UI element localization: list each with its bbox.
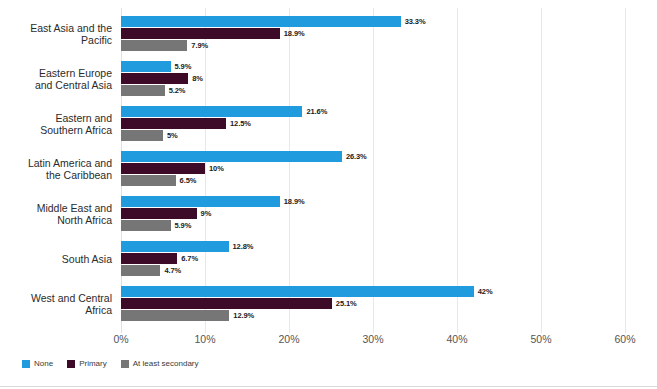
bar-value-label: 21.6% — [306, 106, 327, 117]
bar-at-least-secondary[interactable] — [121, 310, 229, 321]
bar-row: 26.3% — [121, 151, 625, 162]
bar-row: 9% — [121, 208, 625, 219]
bar-row: 21.6% — [121, 106, 625, 117]
bar-value-label: 5.9% — [175, 61, 192, 72]
bar-row: 25.1% — [121, 298, 625, 309]
bar-primary[interactable] — [121, 253, 177, 264]
bar-none[interactable] — [121, 196, 280, 207]
bar-none[interactable] — [121, 61, 171, 72]
category-label-line: the Caribbean — [0, 169, 112, 182]
bar-value-label: 12.8% — [233, 241, 254, 252]
bar-primary[interactable] — [121, 208, 197, 219]
bar-value-label: 8% — [192, 73, 203, 84]
bar-row: 5.9% — [121, 61, 625, 72]
bar-value-label: 25.1% — [336, 298, 357, 309]
legend-swatch-icon — [22, 360, 30, 368]
bar-value-label: 42% — [478, 286, 493, 297]
x-axis: 0%10%20%30%40%50%60% — [0, 333, 657, 353]
x-tick-label: 50% — [530, 333, 551, 345]
bar-group: 18.9%9%5.9% — [121, 196, 625, 231]
bar-row: 4.7% — [121, 265, 625, 276]
bar-value-label: 18.9% — [284, 196, 305, 207]
category-label-eastern-europe-and-central-asia: Eastern Europeand Central Asia — [0, 67, 112, 92]
legend-item-none[interactable]: None — [22, 359, 53, 368]
bar-none[interactable] — [121, 106, 302, 117]
x-tick-label: 0% — [113, 333, 128, 345]
bar-row: 5.2% — [121, 85, 625, 96]
bar-row: 5% — [121, 130, 625, 141]
category-label-line: Africa — [0, 304, 112, 317]
bar-primary[interactable] — [121, 163, 205, 174]
bar-row: 10% — [121, 163, 625, 174]
x-tick-label: 40% — [446, 333, 467, 345]
x-tick-label: 60% — [614, 333, 635, 345]
bar-value-label: 7.9% — [191, 40, 208, 51]
x-tick-label: 10% — [194, 333, 215, 345]
category-label-line: Eastern and — [0, 112, 112, 125]
bar-value-label: 12.5% — [230, 118, 251, 129]
bar-at-least-secondary[interactable] — [121, 40, 187, 51]
legend-swatch-icon — [67, 360, 75, 368]
bar-group: 21.6%12.5%5% — [121, 106, 625, 141]
bar-group: 5.9%8%5.2% — [121, 61, 625, 96]
category-label-line: Latin America and — [0, 157, 112, 170]
plot-area: 33.3%18.9%7.9%5.9%8%5.2%21.6%12.5%5%26.3… — [121, 8, 625, 333]
bar-value-label: 9% — [201, 208, 212, 219]
bar-primary[interactable] — [121, 73, 188, 84]
category-label-line: Southern Africa — [0, 124, 112, 137]
bar-primary[interactable] — [121, 298, 332, 309]
bar-value-label: 5.9% — [175, 220, 192, 231]
legend-label: Primary — [79, 359, 107, 368]
bar-at-least-secondary[interactable] — [121, 265, 160, 276]
category-label-line: South Asia — [0, 253, 112, 266]
bar-row: 12.5% — [121, 118, 625, 129]
bar-none[interactable] — [121, 241, 229, 252]
bar-primary[interactable] — [121, 118, 226, 129]
legend-label: None — [34, 359, 53, 368]
category-label-line: Pacific — [0, 34, 112, 47]
bar-group: 26.3%10%6.5% — [121, 151, 625, 186]
bar-value-label: 12.9% — [233, 310, 254, 321]
bar-value-label: 6.5% — [180, 175, 197, 186]
bar-row: 18.9% — [121, 28, 625, 39]
category-label-line: East Asia and the — [0, 22, 112, 35]
bar-value-label: 4.7% — [164, 265, 181, 276]
category-label-line: North Africa — [0, 214, 112, 227]
bar-group: 42%25.1%12.9% — [121, 286, 625, 321]
x-tick-label: 30% — [362, 333, 383, 345]
bar-row: 8% — [121, 73, 625, 84]
bottom-divider — [0, 386, 657, 387]
category-label-east-asia-and-the-pacific: East Asia and thePacific — [0, 22, 112, 47]
bar-at-least-secondary[interactable] — [121, 175, 176, 186]
x-tick-label: 20% — [278, 333, 299, 345]
bar-value-label: 10% — [209, 163, 224, 174]
bar-primary[interactable] — [121, 28, 280, 39]
bar-none[interactable] — [121, 286, 474, 297]
bar-none[interactable] — [121, 16, 401, 27]
bar-row: 7.9% — [121, 40, 625, 51]
bar-value-label: 26.3% — [346, 151, 367, 162]
bar-value-label: 33.3% — [405, 16, 426, 27]
legend-item-primary[interactable]: Primary — [67, 359, 107, 368]
category-label-west-and-central-africa: West and CentralAfrica — [0, 292, 112, 317]
bar-none[interactable] — [121, 151, 342, 162]
bar-at-least-secondary[interactable] — [121, 130, 163, 141]
bar-value-label: 5.2% — [169, 85, 186, 96]
category-label-line: West and Central — [0, 292, 112, 305]
bar-row: 5.9% — [121, 220, 625, 231]
legend-item-at-least-secondary[interactable]: At least secondary — [121, 359, 199, 368]
bar-row: 6.7% — [121, 253, 625, 264]
bar-group: 33.3%18.9%7.9% — [121, 16, 625, 51]
bar-value-label: 6.7% — [181, 253, 198, 264]
legend-label: At least secondary — [133, 359, 199, 368]
category-label-line: and Central Asia — [0, 79, 112, 92]
bar-value-label: 18.9% — [284, 28, 305, 39]
category-label-line: Middle East and — [0, 202, 112, 215]
bar-group: 12.8%6.7%4.7% — [121, 241, 625, 276]
bar-at-least-secondary[interactable] — [121, 220, 171, 231]
bar-row: 12.9% — [121, 310, 625, 321]
gridline-60% — [625, 8, 626, 333]
category-label-latin-america-and-the-caribbean: Latin America andthe Caribbean — [0, 157, 112, 182]
bar-at-least-secondary[interactable] — [121, 85, 165, 96]
category-label-middle-east-and-north-africa: Middle East andNorth Africa — [0, 202, 112, 227]
